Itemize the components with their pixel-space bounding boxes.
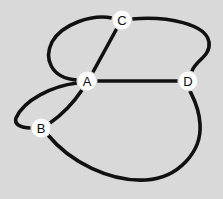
graph-node-b[interactable]: B bbox=[31, 118, 51, 138]
node-label-d: D bbox=[183, 74, 192, 89]
edge-c-d bbox=[132, 18, 209, 71]
graph-canvas: ABCD bbox=[0, 0, 223, 199]
edge-a-c bbox=[49, 17, 112, 80]
node-label-c: C bbox=[117, 13, 126, 28]
graph-node-a[interactable]: A bbox=[77, 71, 97, 91]
graph-node-d[interactable]: D bbox=[178, 71, 198, 91]
edge-a-b bbox=[50, 90, 82, 123]
graph-figure: ABCD bbox=[0, 0, 223, 199]
node-label-b: B bbox=[37, 121, 46, 136]
graph-node-c[interactable]: C bbox=[112, 10, 132, 30]
edge-layer bbox=[16, 17, 210, 180]
edge-a-c bbox=[93, 30, 116, 72]
node-label-a: A bbox=[83, 74, 92, 89]
